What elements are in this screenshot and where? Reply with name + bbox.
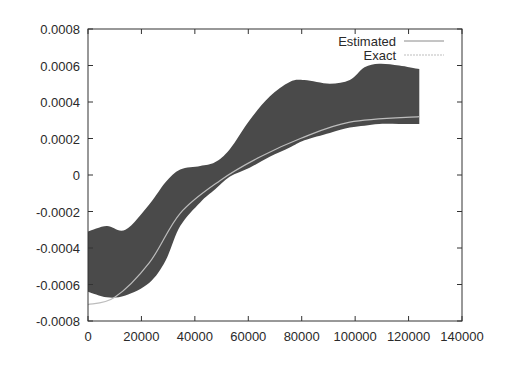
x-tick-label: 20000 — [123, 329, 159, 344]
x-tick-label: 60000 — [230, 329, 266, 344]
legend-label-estimated: Estimated — [338, 34, 396, 49]
chart: 020000400006000080000100000120000140000 … — [0, 0, 516, 368]
y-tick-label: 0.0004 — [40, 95, 80, 110]
y-tick-label: -0.0008 — [36, 314, 80, 329]
x-tick-label: 140000 — [440, 329, 483, 344]
y-tick-label: -0.0006 — [36, 278, 80, 293]
y-tick-label: -0.0002 — [36, 205, 80, 220]
x-tick-label: 100000 — [333, 329, 376, 344]
legend-label-exact: Exact — [363, 48, 396, 63]
x-tick-label: 40000 — [177, 329, 213, 344]
y-tick-label: 0 — [73, 168, 80, 183]
y-tick-label: 0.0002 — [40, 132, 80, 147]
x-tick-label: 0 — [84, 329, 91, 344]
y-tick-label: 0.0006 — [40, 59, 80, 74]
x-tick-label: 80000 — [284, 329, 320, 344]
y-tick-label: 0.0008 — [40, 22, 80, 37]
estimated-band — [88, 64, 419, 298]
legend: Estimated Exact — [338, 34, 444, 63]
x-tick-label: 120000 — [387, 329, 430, 344]
y-tick-label: -0.0004 — [36, 241, 80, 256]
estimated-band-area — [88, 64, 419, 298]
x-axis: 020000400006000080000100000120000140000 — [84, 29, 483, 344]
